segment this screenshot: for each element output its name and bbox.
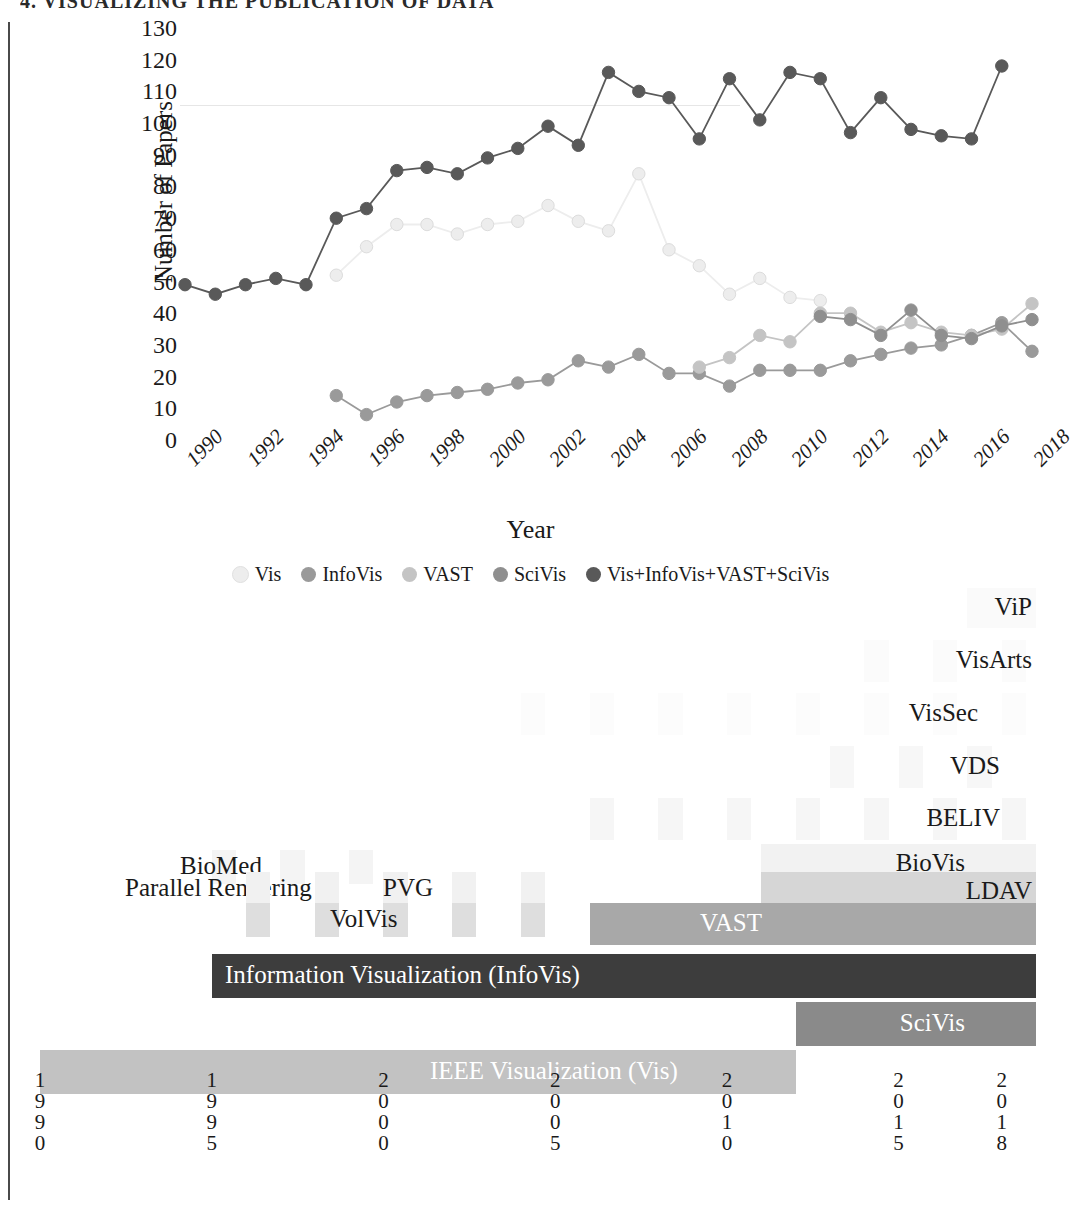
timeline-year-1990: 1990 [35,1070,46,1154]
data-point [330,212,342,224]
series-Vis-InfoVis-VAST-SciVis [179,60,1008,301]
x-axis-title: Year [0,515,1061,545]
data-point [814,310,826,322]
year-digit: 9 [35,1091,46,1112]
year-digit: 9 [206,1091,217,1112]
data-point [996,60,1008,72]
series-Vis [330,168,826,307]
data-point [996,320,1008,332]
year-digit: 0 [722,1133,733,1154]
data-point [421,218,433,230]
data-point [360,408,372,420]
data-point [360,241,372,253]
timeline-label-SciVis: SciVis [900,1010,965,1035]
timeline-segment [864,640,888,682]
timeline-segment [315,872,339,906]
timeline-label-VolVis: VolVis [330,906,398,931]
data-point [814,364,826,376]
timeline-segment [590,798,614,840]
data-point [814,73,826,85]
data-point [330,389,342,401]
data-point [814,294,826,306]
data-point [572,355,584,367]
timeline-segment [796,798,820,840]
timeline-segment [590,693,614,735]
timeline-segment [899,746,923,788]
timeline-segment [933,640,957,682]
year-digit: 2 [378,1070,389,1091]
timeline-row-BELIV: BELIV [0,798,1061,840]
data-point [875,92,887,104]
data-point [723,288,735,300]
timeline-segment [521,903,545,937]
year-digit: 2 [550,1070,561,1091]
data-point [1026,345,1038,357]
y-tick-20: 20 [117,365,177,389]
data-point [693,260,705,272]
year-digit: 2 [893,1070,904,1091]
data-point [905,304,917,316]
data-point [330,269,342,281]
timeline-row-VisArts: VisArts [0,640,1061,682]
timeline-segment [1002,798,1026,840]
data-point [723,73,735,85]
data-point [179,279,191,291]
year-digit: 0 [378,1112,389,1133]
series-InfoVis [330,317,1038,421]
year-digit: 0 [550,1112,561,1133]
legend-swatch-icon [493,567,508,582]
timeline-label-VDS: VDS [950,753,1000,778]
data-point [844,313,856,325]
data-point [754,114,766,126]
data-point [935,329,947,341]
data-point [663,244,675,256]
y-tick-80: 80 [117,174,177,198]
data-point [663,367,675,379]
chart-legend: VisInfoVisVASTSciVisVis+InfoVis+VAST+Sci… [0,563,1061,586]
legend-swatch-icon [301,567,316,582]
data-point [663,92,675,104]
timeline-year-2018: 2018 [996,1070,1007,1154]
data-point [481,383,493,395]
data-point [784,336,796,348]
data-point [875,348,887,360]
y-tick-60: 60 [117,238,177,262]
timeline-year-2000: 2000 [378,1070,389,1154]
data-point [965,133,977,145]
data-point [905,317,917,329]
legend-item-VAST: VAST [402,563,473,586]
data-point [451,228,463,240]
timeline-segment [246,872,270,906]
timeline-label-VisArts: VisArts [956,647,1032,672]
y-tick-110: 110 [117,79,177,103]
timeline-year-2010: 2010 [722,1070,733,1154]
timeline-row-SciVis: SciVis [0,1002,1061,1046]
legend-label: VAST [423,563,473,586]
legend-label: Vis+InfoVis+VAST+SciVis [607,563,829,586]
timeline-segment [246,903,270,937]
timeline-label-InfoVis: Information Visualization (InfoVis) [225,962,580,987]
y-tick-0: 0 [117,428,177,452]
data-point [844,126,856,138]
timeline-segment [727,693,751,735]
data-point [209,288,221,300]
timeline-segment [727,798,751,840]
year-digit: 2 [722,1070,733,1091]
data-point [935,130,947,142]
series-VAST [693,298,1038,374]
timeline-segment [658,798,682,840]
data-point [542,374,554,386]
year-digit: 5 [893,1133,904,1154]
year-digit: 0 [378,1091,389,1112]
data-point [754,272,766,284]
year-digit: 2 [996,1070,1007,1091]
data-point [602,225,614,237]
data-point [633,85,645,97]
legend-item-Vis-InfoVis-VAST-SciVis: Vis+InfoVis+VAST+SciVis [586,563,829,586]
legend-item-SciVis: SciVis [493,563,566,586]
year-digit: 9 [35,1112,46,1133]
y-tick-30: 30 [117,333,177,357]
data-point [451,386,463,398]
papers-line-chart: Number of Papers 01020304050607080901001… [0,18,1061,578]
data-point [481,218,493,230]
